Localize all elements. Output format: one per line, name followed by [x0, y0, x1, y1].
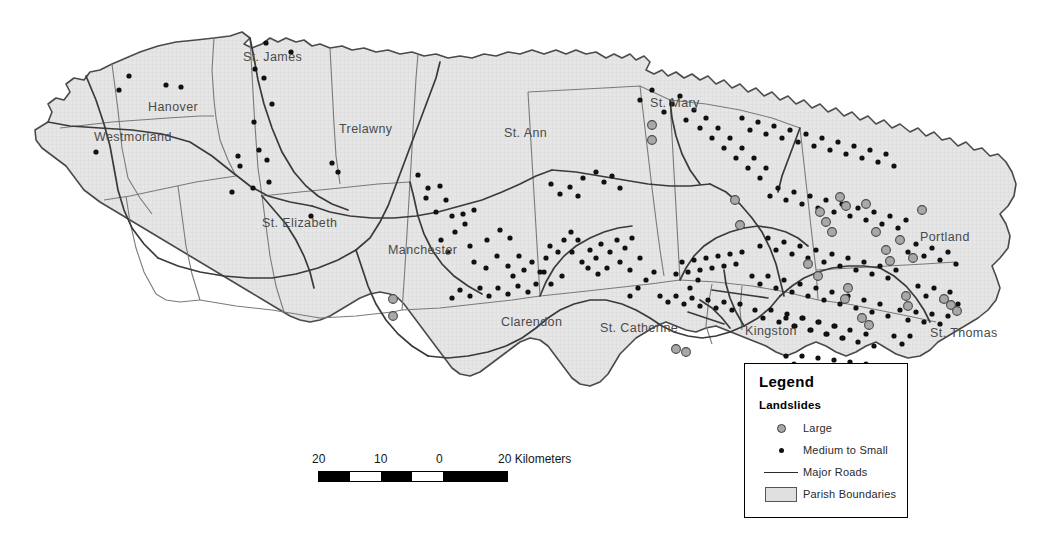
landslide-point-small [677, 93, 682, 98]
scale-bar-track [318, 471, 508, 482]
landslide-point-small [569, 249, 574, 254]
jamaica-landslide-map: HanoverWestmorlandSt. JamesTrelawnySt. E… [0, 0, 1045, 544]
landslide-point-small [593, 169, 598, 174]
landslide-point-small [729, 307, 734, 312]
landslide-point-small [765, 273, 770, 278]
scale-tick-label: 20 Kilometers [498, 452, 571, 466]
landslide-point-large [836, 193, 845, 202]
landslide-point-large [886, 257, 895, 266]
landslide-point-small [568, 229, 573, 234]
landslide-point-small [555, 249, 560, 254]
landslide-point-small [598, 241, 603, 246]
landslide-point-small [879, 221, 884, 226]
landslide-point-large [896, 236, 905, 245]
landslide-point-small [791, 189, 796, 194]
landslide-point-small [771, 123, 776, 128]
landslide-point-large [648, 136, 657, 145]
landslide-point-small [329, 160, 334, 165]
landslide-point-large [904, 302, 913, 311]
landslide-point-small [462, 221, 467, 226]
landslide-point-small [781, 277, 786, 282]
landslide-point-small [733, 155, 738, 160]
landslide-point-small [423, 195, 428, 200]
landslide-point-small [601, 179, 606, 184]
landslide-point-small [580, 175, 585, 180]
landslide-point-small [697, 303, 702, 308]
landslide-point-small [715, 125, 720, 130]
landslide-point-small [637, 97, 642, 102]
landslide-point-small [607, 249, 612, 254]
landslide-point-small [739, 145, 744, 150]
landslide-point-small [863, 331, 868, 336]
landslide-point-small [437, 183, 442, 188]
landslide-point-large [682, 348, 691, 357]
landslide-point-small [831, 357, 836, 362]
landslide-point-small [807, 193, 812, 198]
scale-bar-segment [381, 472, 412, 481]
landslide-point-small [457, 287, 462, 292]
landslide-point-small [116, 87, 121, 92]
small-dot-icon [759, 448, 803, 453]
scale-bar: 2010020 Kilometers [318, 452, 508, 482]
landslide-point-small [629, 235, 634, 240]
landslide-point-small [767, 193, 772, 198]
landslide-point-small [799, 201, 804, 206]
landslide-point-small [763, 131, 768, 136]
landslide-point-small [635, 285, 640, 290]
landslide-point-small [877, 263, 882, 268]
landslide-point-small [831, 209, 836, 214]
landslide-point-large [822, 218, 831, 227]
landslide-point-small [460, 211, 465, 216]
landslide-point-small [923, 293, 928, 298]
scale-bar-segment [412, 472, 443, 481]
landslide-point-small [433, 209, 438, 214]
landslide-point-small [893, 267, 898, 272]
scale-bar-segment [319, 472, 350, 481]
landslide-point-large [672, 345, 681, 354]
landslide-point-small [843, 151, 848, 156]
landslide-point-small [783, 353, 788, 358]
landslide-point-small [837, 263, 842, 268]
legend-label-parish-boundaries: Parish Boundaries [803, 488, 896, 500]
landslide-point-small [905, 317, 910, 322]
landslide-point-small [819, 135, 824, 140]
landslide-point-small [795, 139, 800, 144]
landslide-point-small [847, 213, 852, 218]
landslide-point-small [913, 309, 918, 314]
landslide-point-small [885, 313, 890, 318]
landslide-point-small [808, 327, 813, 332]
landslide-point-large [909, 254, 918, 263]
landslide-point-small [803, 131, 808, 136]
landslide-point-small [497, 227, 502, 232]
landslide-point-small [903, 217, 908, 222]
landslide-point-small [661, 109, 666, 114]
landslide-point-small [953, 261, 958, 266]
landslide-point-small [266, 179, 271, 184]
landslide-point-small [867, 147, 872, 152]
landslide-point-small [877, 301, 882, 306]
landslide-point-small [269, 101, 274, 106]
landslide-point-small [657, 293, 662, 298]
landslide-point-small [229, 189, 234, 194]
landslide-point-small [617, 185, 622, 190]
landslide-point-small [805, 293, 810, 298]
landslide-point-small [443, 197, 448, 202]
landslide-point-small [800, 315, 805, 320]
legend-label-major-roads: Major Roads [803, 466, 868, 478]
parish-swatch-icon [759, 487, 803, 502]
landslide-point-small [561, 237, 566, 242]
landslide-point-small [851, 143, 856, 148]
landslide-point-large [842, 202, 851, 211]
landslide-point-small [747, 127, 752, 132]
landslide-point-small [264, 157, 269, 162]
landslide-point-small [521, 267, 526, 272]
landslide-point-small [863, 217, 868, 222]
landslide-point-small [789, 251, 794, 256]
scale-tick-label: 10 [374, 452, 387, 466]
landslide-point-small [840, 335, 845, 340]
landslide-point-small [477, 285, 482, 290]
scale-bar-tick-labels: 2010020 Kilometers [318, 452, 508, 468]
landslide-point-large [816, 208, 825, 217]
landslide-point-large [804, 260, 813, 269]
landslide-point-small [622, 245, 627, 250]
